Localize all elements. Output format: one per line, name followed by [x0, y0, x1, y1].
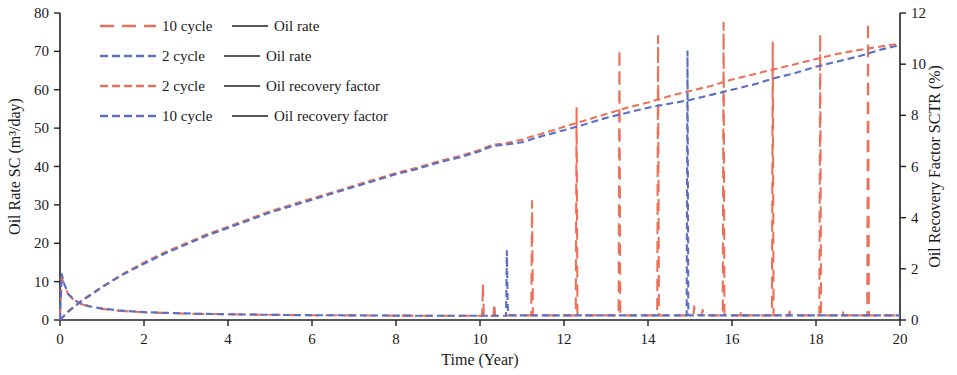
- x-axis-tick-label: 10: [473, 331, 488, 347]
- y-axis-right-tick-label: 6: [911, 159, 919, 175]
- y-axis-right-tick-label: 4: [911, 210, 919, 226]
- y-axis-left-title: Oil Rate SC (m³/day): [6, 98, 24, 235]
- y-axis-right-tick-label: 0: [911, 312, 919, 328]
- chart-svg: 0102030405060708002468101202468101214161…: [0, 0, 957, 375]
- legend-metric-label-2: Oil recovery factor: [266, 78, 380, 94]
- y-axis-left-tick-label: 20: [34, 235, 49, 251]
- legend-metric-label-1: Oil rate: [266, 48, 312, 64]
- series-line-0: [60, 23, 900, 320]
- x-axis-tick-label: 0: [56, 331, 64, 347]
- legend-metric-label-0: Oil rate: [274, 18, 320, 34]
- y-axis-left-tick-label: 70: [34, 43, 49, 59]
- oil-rate-recovery-chart: 0102030405060708002468101202468101214161…: [0, 0, 957, 375]
- legend-cycle-label-0: 10 cycle: [162, 18, 213, 34]
- x-axis-tick-label: 20: [893, 331, 908, 347]
- x-axis-tick-label: 4: [224, 331, 232, 347]
- y-axis-left-tick-label: 50: [34, 120, 49, 136]
- y-axis-left-tick-label: 0: [42, 312, 50, 328]
- x-axis-tick-label: 16: [725, 331, 741, 347]
- y-axis-left-tick-label: 60: [34, 82, 49, 98]
- y-axis-left-tick-label: 80: [34, 5, 49, 21]
- y-axis-right-tick-label: 2: [911, 261, 919, 277]
- y-axis-right-title: Oil Recovery Factor SCTR (%): [926, 65, 944, 268]
- legend-cycle-label-2: 2 cycle: [162, 78, 205, 94]
- y-axis-right-tick-label: 10: [911, 56, 926, 72]
- legend-metric-label-3: Oil recovery factor: [274, 108, 388, 124]
- legend-cycle-label-1: 2 cycle: [162, 48, 205, 64]
- x-axis-tick-label: 8: [392, 331, 400, 347]
- x-axis-title: Time (Year): [441, 351, 518, 369]
- x-axis-tick-label: 6: [308, 331, 316, 347]
- legend-cycle-label-3: 10 cycle: [162, 108, 213, 124]
- y-axis-left-tick-label: 30: [34, 197, 49, 213]
- y-axis-right-tick-label: 8: [911, 107, 919, 123]
- x-axis-tick-label: 2: [140, 331, 148, 347]
- x-axis-tick-label: 18: [809, 331, 824, 347]
- y-axis-left-tick-label: 10: [34, 274, 49, 290]
- x-axis-tick-label: 14: [641, 331, 657, 347]
- x-axis-tick-label: 12: [557, 331, 572, 347]
- y-axis-left-tick-label: 40: [34, 159, 49, 175]
- y-axis-right-tick-label: 12: [911, 5, 926, 21]
